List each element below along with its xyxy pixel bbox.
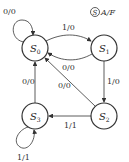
label-s3-s3: 1/1 <box>17 153 30 162</box>
label-s0-s1: 1/0 <box>62 23 75 32</box>
label-s1-s0: 0/0 <box>62 63 75 72</box>
edge-s0-s1 <box>46 35 91 41</box>
state-s3: S3 <box>22 103 48 129</box>
label-s0-s0: 0/0 <box>3 7 16 16</box>
state-s1: S1 <box>91 35 117 61</box>
label-s2-s3: 1/1 <box>64 121 77 130</box>
state-s0: S0 <box>22 35 48 61</box>
edge-s3-s3 <box>16 127 34 148</box>
state-s2: S2 <box>91 103 117 129</box>
label-s3-s0: 0/0 <box>22 77 35 86</box>
label-s1-s2: 1/0 <box>107 77 120 86</box>
label-s2-s0: 0/0 <box>58 81 71 90</box>
edge-s1-s0 <box>48 53 92 60</box>
legend: S A/F <box>91 8 116 18</box>
legend-circled-letter: S <box>93 9 98 17</box>
legend-text: A/F <box>100 8 115 17</box>
state-diagram: S A/F S0 S1 S2 S3 0/0 1/0 0/0 <box>0 0 129 162</box>
